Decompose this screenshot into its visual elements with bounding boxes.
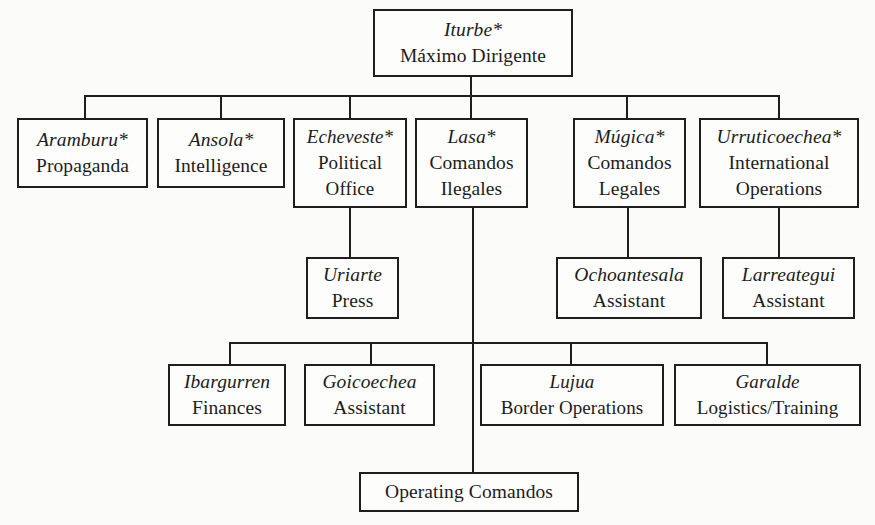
node-role: Ilegales (441, 176, 502, 202)
connector-mugica-ochoantesala (627, 207, 629, 257)
node-name: Larreategui (742, 262, 836, 288)
node-ibargurren: Ibargurren Finances (168, 364, 286, 426)
node-role: Máximo Dirigente (400, 43, 546, 69)
node-name: Garalde (735, 369, 799, 395)
node-uriarte: Uriarte Press (306, 257, 399, 319)
node-name: Múgica* (594, 124, 664, 150)
org-chart: Iturbe* Máximo Dirigente Aramburu* Propa… (0, 0, 875, 525)
node-name: Uriarte (323, 262, 382, 288)
node-role: Legales (599, 176, 660, 202)
node-role: Finances (192, 395, 262, 421)
node-name: Urruticoechea* (717, 124, 842, 150)
node-name: Ansola* (189, 127, 254, 153)
node-name: Iturbe* (444, 17, 502, 43)
node-goicoechea: Goicoechea Assistant (304, 364, 435, 426)
node-echeveste: Echeveste* Political Office (293, 118, 407, 208)
node-name: Lasa* (447, 124, 495, 150)
node-operating-comandos: Operating Comandos (359, 472, 579, 512)
node-role: International (729, 150, 830, 176)
node-name: Lujua (550, 369, 595, 395)
node-ochoantesala: Ochoantesala Assistant (556, 257, 702, 319)
node-mugica: Múgica* Comandos Legales (573, 118, 686, 208)
node-role: Assistant (593, 288, 665, 314)
node-role: Propaganda (36, 153, 129, 179)
node-role: Comandos (587, 150, 671, 176)
connector-lasa-trunk (472, 207, 474, 472)
node-aramburu: Aramburu* Propaganda (17, 118, 148, 188)
node-ansola: Ansola* Intelligence (157, 118, 285, 188)
node-role: Press (332, 288, 374, 314)
connector-level1-bus (84, 95, 780, 97)
connector-drop-lujua (570, 342, 572, 364)
node-role: Logistics/Training (697, 395, 839, 421)
node-name: Goicoechea (322, 369, 416, 395)
connector-root-down (470, 76, 472, 97)
node-role: Political (318, 150, 382, 176)
node-lasa: Lasa* Comandos Ilegales (415, 118, 528, 208)
node-name: Aramburu* (37, 127, 128, 153)
connector-drop-ibargurren (229, 342, 231, 364)
node-role: Operating Comandos (385, 479, 553, 505)
node-lujua: Lujua Border Operations (480, 364, 664, 426)
connector-echeveste-uriarte (349, 207, 351, 257)
node-name: Ochoantesala (574, 262, 684, 288)
node-garalde: Garalde Logistics/Training (674, 364, 861, 426)
connector-drop-garalde (766, 342, 768, 364)
node-role: Operations (736, 176, 823, 202)
connector-lasa-bus (229, 342, 768, 344)
connector-drop-urruticoechea (778, 95, 780, 118)
node-larreategui: Larreategui Assistant (722, 257, 855, 319)
node-role: Comandos (429, 150, 513, 176)
connector-drop-goicoechea (370, 342, 372, 364)
connector-drop-mugica (626, 95, 628, 118)
node-role: Intelligence (174, 153, 267, 179)
node-role: Border Operations (501, 395, 644, 421)
connector-drop-echeveste (349, 95, 351, 118)
connector-drop-ansola (220, 95, 222, 118)
connector-urruticoechea-larreategui (778, 207, 780, 257)
connector-drop-aramburu (84, 95, 86, 118)
node-root: Iturbe* Máximo Dirigente (373, 9, 573, 77)
node-role: Assistant (333, 395, 405, 421)
node-role: Assistant (752, 288, 824, 314)
node-role: Office (326, 176, 375, 202)
node-name: Echeveste* (307, 124, 393, 150)
node-urruticoechea: Urruticoechea* International Operations (699, 118, 859, 208)
connector-drop-lasa (470, 95, 472, 118)
node-name: Ibargurren (184, 369, 270, 395)
